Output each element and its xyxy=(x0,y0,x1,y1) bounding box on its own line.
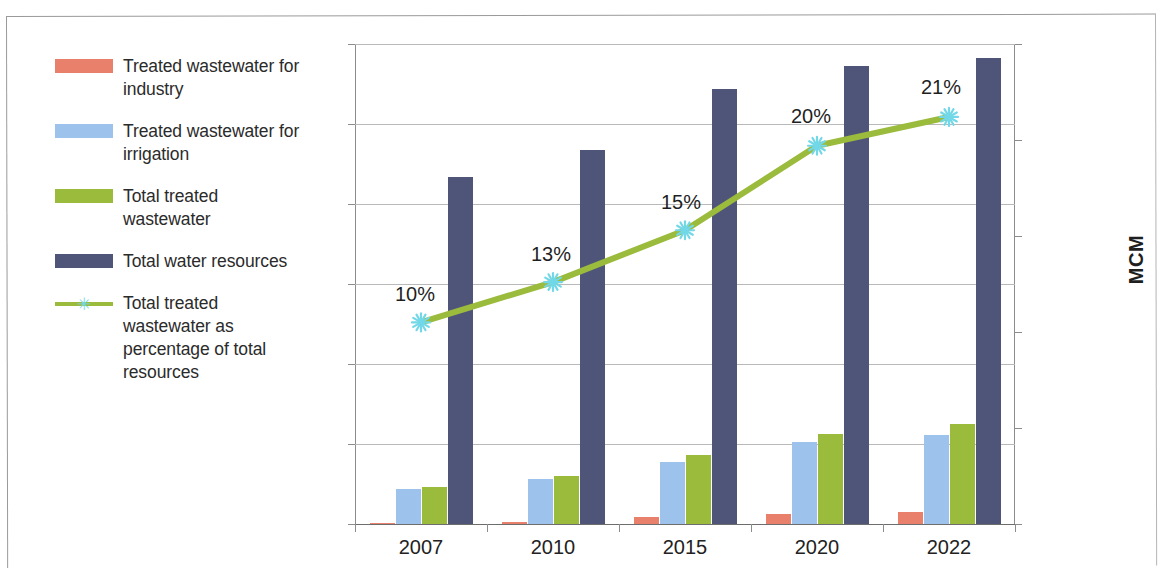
line-point-label: 20% xyxy=(791,105,831,128)
legend-item-label: Total water resources xyxy=(123,250,287,273)
y-axis-right-tick xyxy=(1015,428,1022,429)
x-axis-tick xyxy=(751,524,752,532)
x-axis-tick-label: 2022 xyxy=(889,536,1009,559)
legend-item: Total treated wastewater xyxy=(55,185,305,231)
percentage-line xyxy=(421,117,949,322)
gridline xyxy=(355,524,1015,525)
line-star-marker-icon xyxy=(544,273,562,291)
square-swatch-icon xyxy=(55,124,113,138)
y-axis-right-tick xyxy=(1015,236,1022,237)
line-star-marker-icon xyxy=(940,108,958,126)
x-axis-tick-label: 2020 xyxy=(757,536,877,559)
y-axis-left-tick xyxy=(348,204,355,205)
legend-item-label: Total treated wastewater as percentage o… xyxy=(123,292,305,384)
x-axis-tick xyxy=(883,524,884,532)
legend-item: Treated wastewater for industry xyxy=(55,55,305,101)
chart-legend: Treated wastewater for industryTreated w… xyxy=(55,55,305,403)
legend-item: Treated wastewater for irrigation xyxy=(55,120,305,166)
y-axis-right-tick xyxy=(1015,524,1022,525)
y-axis-right-tick xyxy=(1015,140,1022,141)
line-star-marker-icon xyxy=(412,313,430,331)
x-axis-tick-label: 2007 xyxy=(361,536,481,559)
legend-item: ✳Total treated wastewater as percentage … xyxy=(55,292,305,384)
line-series-layer xyxy=(355,44,1015,524)
plot-area: 020040060080010001200 0%5%10%15%20%25% 1… xyxy=(355,44,1015,524)
y-axis-left-tick xyxy=(348,524,355,525)
x-axis-tick xyxy=(1015,524,1016,532)
line-point-label: 10% xyxy=(395,283,435,306)
y-axis-left-tick xyxy=(348,284,355,285)
y-axis-right-tick xyxy=(1015,44,1022,45)
right-axis-title: MCM xyxy=(1125,235,1148,284)
legend-item-label: Total treated wastewater xyxy=(123,185,305,231)
square-swatch-icon xyxy=(55,189,113,203)
legend-item: Total water resources xyxy=(55,250,305,273)
square-swatch-icon xyxy=(55,59,113,73)
legend-item-label: Treated wastewater for industry xyxy=(123,55,305,101)
x-axis-tick xyxy=(355,524,356,532)
y-axis-right-tick xyxy=(1015,332,1022,333)
x-axis-tick-label: 2015 xyxy=(625,536,745,559)
square-swatch-icon xyxy=(55,254,113,268)
legend-item-label: Treated wastewater for irrigation xyxy=(123,120,305,166)
y-axis-left-tick xyxy=(348,444,355,445)
line-marker-icon: ✳ xyxy=(55,296,113,312)
legend-star-marker-icon: ✳ xyxy=(77,297,91,311)
line-point-label: 15% xyxy=(661,191,701,214)
line-point-label: 13% xyxy=(531,243,571,266)
y-axis-left-tick xyxy=(348,364,355,365)
y-axis-left-tick xyxy=(348,44,355,45)
line-point-label: 21% xyxy=(921,76,961,99)
x-axis-tick xyxy=(487,524,488,532)
x-axis-tick xyxy=(619,524,620,532)
x-axis-tick-label: 2010 xyxy=(493,536,613,559)
y-axis-left-tick xyxy=(348,124,355,125)
